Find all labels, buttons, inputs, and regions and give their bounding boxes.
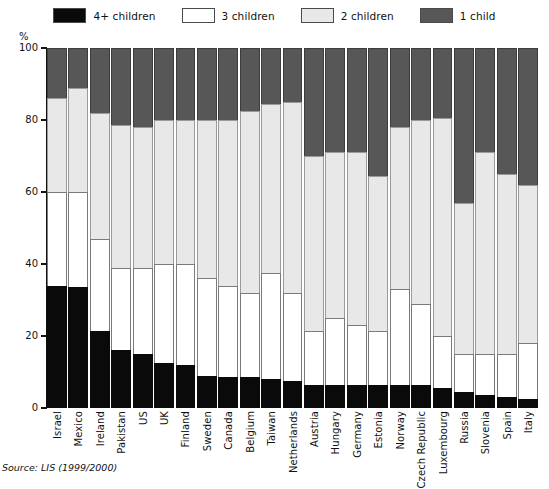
bar-column [454, 48, 474, 408]
bar-column [497, 48, 517, 408]
bar-segment-4--children [454, 392, 474, 408]
x-axis-tick-label: Austria [308, 411, 319, 447]
bar-segment-1-child [154, 48, 174, 120]
x-axis-tick-label: US [137, 411, 148, 425]
bar-column [240, 48, 260, 408]
bar-column [47, 48, 67, 408]
x-axis-tick-label: Hungary [330, 411, 341, 454]
bar-segment-1-child [47, 48, 67, 98]
x-axis-label-cell: Luxembourg [433, 409, 453, 473]
bar-segment-4--children [433, 388, 453, 408]
bar-segment-2-children [47, 98, 67, 192]
bar-segment-1-child [90, 48, 110, 113]
x-axis-label-cell: Netherlands [283, 409, 303, 473]
legend-swatch-3-children [182, 8, 215, 23]
x-axis-tick-label: Estonia [373, 411, 384, 449]
bar-segment-4--children [325, 385, 345, 408]
bar-segment-4--children [240, 377, 260, 408]
bar-segment-4--children [261, 379, 281, 408]
x-axis-tick-label: Spain [501, 411, 512, 439]
x-axis-tick-label: Norway [394, 411, 405, 450]
bar-segment-2-children [390, 127, 410, 289]
x-axis-label-cell: Austria [304, 409, 324, 473]
bar-segment-3-children [325, 318, 345, 385]
legend-label-2-children: 2 children [341, 10, 394, 22]
bar-segment-2-children [518, 185, 538, 343]
bar-segment-3-children [518, 343, 538, 399]
x-axis-label-cell: Slovenia [475, 409, 495, 473]
bar-column [133, 48, 153, 408]
bar-segment-2-children [347, 152, 367, 325]
bar-segment-1-child [283, 48, 303, 102]
legend-item-3-children: 3 children [182, 8, 275, 23]
bar-segment-4--children [133, 354, 153, 408]
x-axis-label-cell: Finland [176, 409, 196, 473]
y-axis-tick-label: 60 [0, 186, 38, 197]
bar-column [261, 48, 281, 408]
bar-column [433, 48, 453, 408]
bar-segment-3-children [283, 293, 303, 381]
bar-segment-1-child [411, 48, 431, 120]
x-axis-label-cell: US [133, 409, 153, 473]
x-axis-label-cell: UK [154, 409, 174, 473]
source-note: Source: LIS (1999/2000) [2, 462, 117, 473]
bar-segment-4--children [154, 363, 174, 408]
bar-segment-3-children [454, 354, 474, 392]
bar-segment-2-children [411, 120, 431, 304]
x-axis-label-cell: Sweden [197, 409, 217, 473]
bar-segment-4--children [411, 385, 431, 408]
x-axis-tick-label: Taiwan [266, 411, 277, 446]
bar-segment-3-children [47, 192, 67, 286]
bar-segment-3-children [304, 331, 324, 385]
y-axis-tick-label: 100 [0, 42, 38, 53]
x-axis-label-cell: Russia [454, 409, 474, 473]
x-axis-tick-label: Germany [351, 411, 362, 458]
bar-segment-3-children [240, 293, 260, 378]
bar-column [304, 48, 324, 408]
x-axis-tick-label: Israel [51, 411, 62, 439]
bar-segment-4--children [176, 365, 196, 408]
bar-segment-3-children [261, 273, 281, 379]
legend-label-4plus-children: 4+ children [93, 10, 155, 22]
x-axis-label-cell: Taiwan [261, 409, 281, 473]
x-axis-tick-label: Russia [458, 411, 469, 444]
legend-item-4plus-children: 4+ children [53, 8, 155, 23]
bar-segment-2-children [240, 111, 260, 293]
bar-segment-2-children [433, 118, 453, 336]
legend-swatch-1-child [420, 8, 453, 23]
bar-segment-2-children [111, 125, 131, 267]
bar-segment-3-children [390, 289, 410, 384]
y-axis-tick-label: 40 [0, 258, 38, 269]
bar-segment-2-children [218, 120, 238, 286]
bar-column [90, 48, 110, 408]
legend-label-1-child: 1 child [460, 10, 496, 22]
bar-segment-1-child [261, 48, 281, 104]
bar-segment-1-child [240, 48, 260, 111]
bar-segment-1-child [68, 48, 88, 88]
bar-segment-3-children [497, 354, 517, 397]
legend-swatch-2-children [301, 8, 334, 23]
bar-segment-1-child [111, 48, 131, 125]
bar-segment-1-child [368, 48, 388, 176]
bar-column [197, 48, 217, 408]
x-axis-tick-label: Netherlands [287, 411, 298, 473]
bar-column [390, 48, 410, 408]
legend-item-1-child: 1 child [420, 8, 496, 23]
x-axis-label-cell: Czech Republic [411, 409, 431, 473]
x-axis-label-cell: Norway [390, 409, 410, 473]
x-axis-label-cell: Germany [347, 409, 367, 473]
bar-segment-4--children [518, 399, 538, 408]
bar-column [475, 48, 495, 408]
x-axis-tick-label: Sweden [201, 411, 212, 451]
bar-segment-1-child [197, 48, 217, 120]
bar-segment-1-child [454, 48, 474, 203]
bar-column [283, 48, 303, 408]
bar-segment-3-children [197, 278, 217, 375]
bar-segment-1-child [518, 48, 538, 185]
bar-segment-4--children [475, 395, 495, 408]
x-axis-tick-label: UK [159, 411, 170, 425]
bar-segment-1-child [497, 48, 517, 174]
x-axis-tick-label: Slovenia [480, 411, 491, 454]
y-axis-tick-label: 20 [0, 330, 38, 341]
bar-segment-3-children [154, 264, 174, 363]
